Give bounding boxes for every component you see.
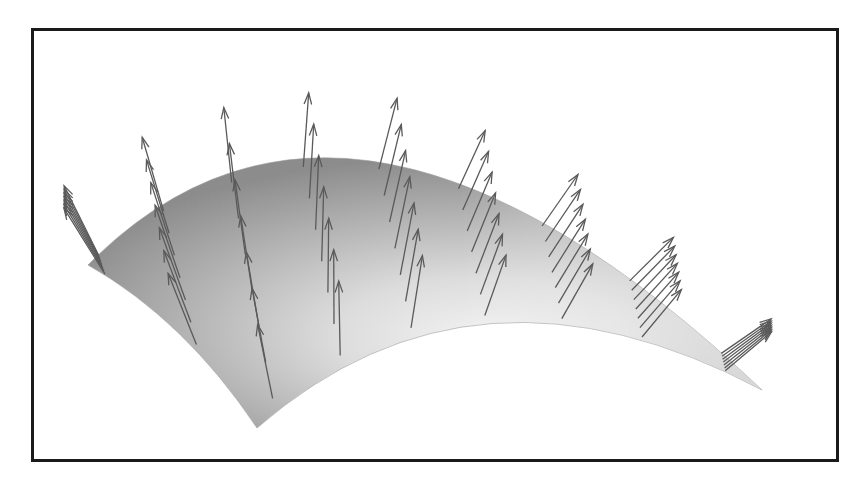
normal-arrow [64,193,101,262]
normal-arrow [64,197,102,265]
arrow-shaft [64,197,102,265]
normal-arrow [64,201,103,268]
arrow-shaft [64,208,105,274]
arrow-shaft [64,204,104,271]
arrow-shaft [64,201,103,268]
arrow-shaft [303,93,308,167]
normal-arrow [142,137,164,211]
normal-arrow [723,323,772,359]
arrow-shaft [64,190,100,259]
arrow-icon [576,219,585,231]
normal-arrow [64,186,99,256]
arrow-shaft [64,193,101,262]
normal-arrow [64,204,104,271]
arrow-icon [579,234,588,246]
normal-arrow [303,93,311,167]
arrow-shaft [328,218,329,292]
arrow-shaft [723,325,771,362]
arrow-icon [574,204,583,216]
surface-normals-diagram: Curved surface patch with unit normal ve… [0,0,858,480]
arrow-shaft [64,186,99,256]
arrow-shaft [379,98,397,169]
arrow-icon [571,189,581,201]
arrow-shaft [723,323,772,359]
normal-arrow [64,208,105,274]
normal-arrow [64,190,100,259]
arrow-shaft [142,137,163,211]
normal-arrow [723,325,771,362]
